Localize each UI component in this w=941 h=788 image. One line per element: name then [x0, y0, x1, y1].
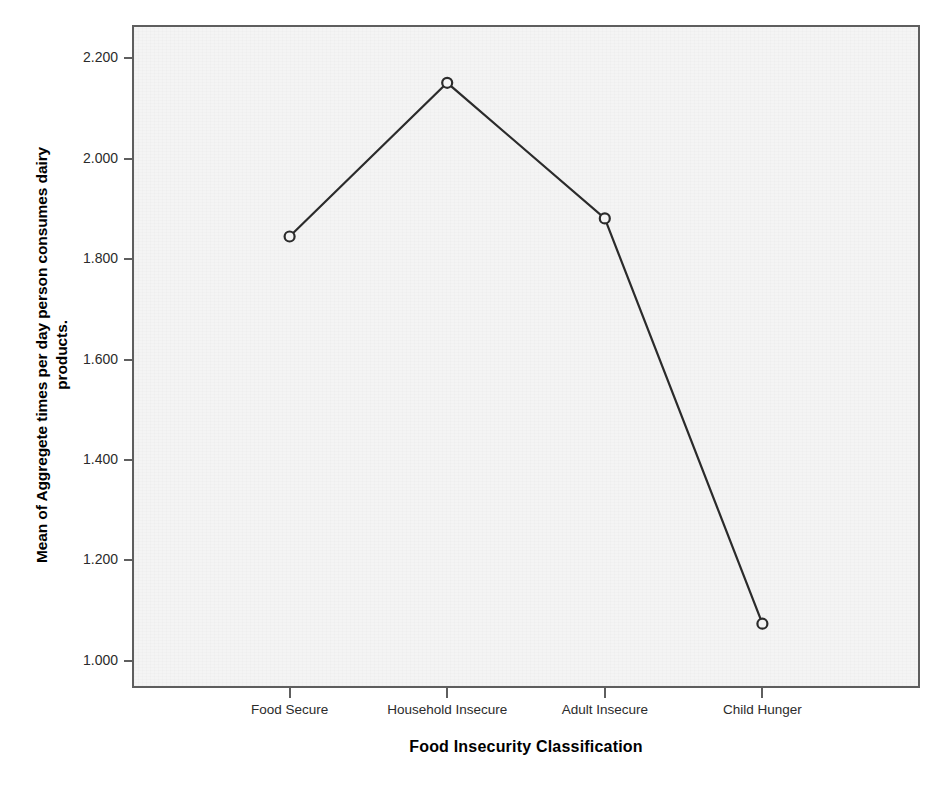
x-tick-label: Food Secure: [251, 702, 328, 717]
y-tick-label: 1.600: [0, 351, 132, 369]
x-tick-label: Child Hunger: [723, 702, 802, 717]
y-tick-label: 2.200: [0, 49, 132, 67]
y-tick-label: 1.000: [0, 652, 132, 670]
x-tick-mark: [446, 688, 448, 698]
x-tick-mark: [761, 688, 763, 698]
plot-background-texture: [134, 27, 918, 686]
plot-area: [132, 25, 920, 688]
x-tick-mark: [289, 688, 291, 698]
x-tick-mark: [604, 688, 606, 698]
y-tick-label: 1.800: [0, 250, 132, 268]
y-tick-label: 1.400: [0, 451, 132, 469]
x-axis-title: Food Insecurity Classification: [132, 738, 920, 756]
x-tick-label: Adult Insecure: [562, 702, 648, 717]
x-tick-label: Household Insecure: [387, 702, 507, 717]
y-tick-label: 2.000: [0, 150, 132, 168]
y-tick-label: 1.200: [0, 551, 132, 569]
line-chart: Mean of Aggregete times per day person c…: [0, 0, 941, 788]
